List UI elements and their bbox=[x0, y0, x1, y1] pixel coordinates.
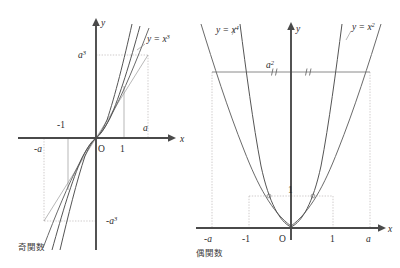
x-axis-arrow-even bbox=[378, 224, 386, 232]
tick-label-one-odd: 1 bbox=[120, 144, 125, 154]
tick-label-a-cubed-odd: a3 bbox=[78, 49, 87, 61]
tick-label-a-odd: a bbox=[143, 123, 148, 133]
tick-label-neg-a-odd: -a bbox=[34, 144, 42, 154]
x-axis-arrow-odd bbox=[168, 134, 176, 142]
origin-label-even: O bbox=[279, 234, 286, 244]
curve-label-leader-x2 bbox=[346, 31, 351, 40]
caption-even: 偶関数 bbox=[196, 248, 223, 258]
tick-label-a-squared-even: a2 bbox=[266, 59, 275, 71]
y-axis-arrow-even bbox=[287, 22, 295, 30]
panel-even: y x O 1 -1 a -a a2 1 y = x4 y = x2 偶関数 bbox=[196, 21, 393, 259]
origin-label-odd: O bbox=[98, 144, 105, 154]
curve-label-x4-even: y = x4 bbox=[215, 24, 240, 36]
x-axis-label-even: x bbox=[387, 224, 393, 234]
tick-label-neg-a-even: -a bbox=[204, 234, 212, 244]
tick-label-neg-one-odd: -1 bbox=[57, 120, 65, 130]
tick-label-neg-one-even: -1 bbox=[242, 234, 250, 244]
y-axis-arrow-odd bbox=[92, 18, 100, 26]
curve-label-x2-even: y = x2 bbox=[351, 21, 376, 33]
tick-label-neg-a-cubed-odd: -a3 bbox=[106, 215, 118, 227]
tick-label-level-one-even: 1 bbox=[288, 185, 293, 195]
tick-label-a-even: a bbox=[366, 234, 371, 244]
curve-label-x3-odd: y = x3 bbox=[146, 33, 171, 45]
panel-odd: y x O 1 -1 a -a a3 -a3 y = x3 奇関数 bbox=[18, 18, 185, 252]
figure-canvas: y x O 1 -1 a -a a3 -a3 y = x3 奇関数 bbox=[0, 0, 400, 268]
y-axis-label-odd: y bbox=[100, 18, 106, 28]
y-axis-label-even: y bbox=[295, 24, 301, 34]
x-axis-label-odd: x bbox=[179, 134, 185, 144]
tick-label-one-even: 1 bbox=[330, 234, 335, 244]
caption-odd: 奇関数 bbox=[18, 242, 45, 252]
